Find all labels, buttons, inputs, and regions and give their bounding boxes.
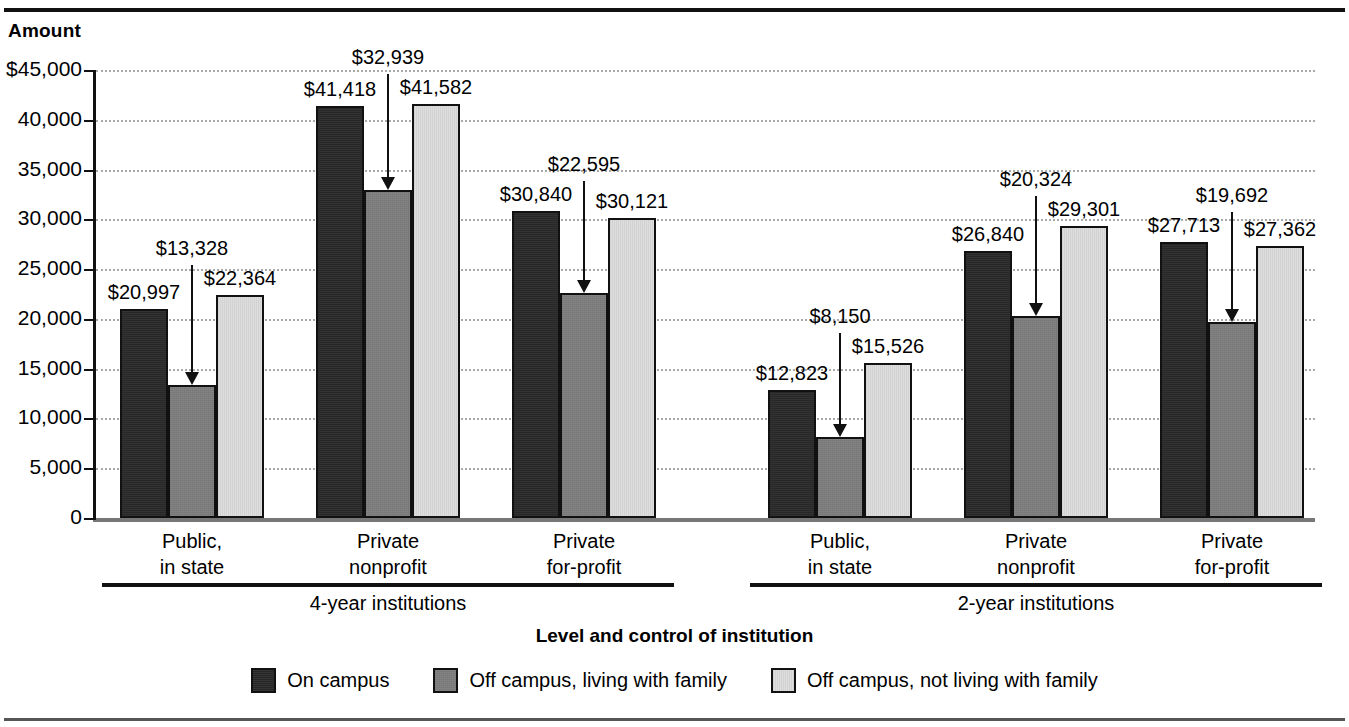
- bar-value-label: $30,840: [500, 183, 572, 206]
- gridline: [96, 120, 1315, 122]
- bar: [608, 218, 656, 518]
- bar: [1160, 242, 1208, 518]
- bar: [316, 106, 364, 518]
- category-label: Private for-profit: [1195, 528, 1269, 580]
- category-label: Public, in state: [808, 528, 872, 580]
- leader-line: [583, 181, 585, 280]
- y-tick-mark: [84, 418, 96, 420]
- bar-value-label: $30,121: [596, 190, 668, 213]
- bar: [1060, 226, 1108, 518]
- y-tick-label: 20,000: [0, 306, 82, 330]
- bar-value-label: $12,823: [756, 362, 828, 385]
- y-tick-mark: [84, 319, 96, 321]
- y-tick-mark: [84, 170, 96, 172]
- gridline: [96, 70, 1315, 72]
- legend-label: Off campus, living with family: [469, 669, 727, 692]
- bar-value-label: $27,362: [1244, 218, 1316, 241]
- y-tick-mark: [84, 369, 96, 371]
- plot-area: $20,997$41,418$30,840$12,823$26,840$27,7…: [93, 70, 1315, 518]
- bar-value-label: $20,324: [1000, 168, 1072, 191]
- y-tick-label: 25,000: [0, 256, 82, 280]
- bar: [1208, 322, 1256, 518]
- y-tick-mark: [84, 269, 96, 271]
- bar: [1256, 246, 1304, 518]
- legend-swatch-icon: [771, 668, 796, 693]
- legend-item[interactable]: Off campus, living with family: [433, 668, 727, 693]
- y-tick-label: 5,000: [0, 455, 82, 479]
- bar-value-label: $32,939: [352, 46, 424, 69]
- gridline: [96, 219, 1315, 221]
- category-label: Private nonprofit: [349, 528, 427, 580]
- y-tick-mark: [84, 219, 96, 221]
- y-axis-title: Amount: [8, 20, 81, 42]
- leader-line: [1231, 212, 1233, 309]
- y-tick-label: 35,000: [0, 157, 82, 181]
- bar-value-label: $22,364: [204, 267, 276, 290]
- legend-swatch-icon: [251, 668, 276, 693]
- leader-arrowhead: [1225, 309, 1239, 322]
- y-tick-label: $45,000: [0, 57, 82, 81]
- y-tick-mark: [84, 518, 96, 520]
- legend-label: On campus: [287, 669, 389, 692]
- legend-swatch-icon: [433, 668, 458, 693]
- bar: [412, 104, 460, 518]
- bar-value-label: $19,692: [1196, 184, 1268, 207]
- gridline: [96, 319, 1315, 321]
- top-rule: [4, 8, 1345, 12]
- bar-value-label: $13,328: [156, 237, 228, 260]
- gridline: [96, 468, 1315, 470]
- y-tick-mark: [84, 468, 96, 470]
- bar-value-label: $22,595: [548, 153, 620, 176]
- level-bracket-rule: [102, 583, 674, 587]
- bar: [1012, 316, 1060, 518]
- y-tick-mark: [84, 70, 96, 72]
- leader-line: [839, 333, 841, 423]
- leader-line: [191, 265, 193, 372]
- y-tick-label: 40,000: [0, 107, 82, 131]
- leader-arrowhead: [381, 177, 395, 190]
- bar: [816, 437, 864, 518]
- bar: [864, 363, 912, 518]
- category-label: Private nonprofit: [997, 528, 1075, 580]
- bar: [364, 190, 412, 518]
- gridline: [96, 170, 1315, 172]
- x-axis-title: Level and control of institution: [0, 625, 1349, 647]
- gridline: [96, 369, 1315, 371]
- level-label: 2-year institutions: [958, 592, 1115, 615]
- leader-arrowhead: [833, 424, 847, 437]
- legend-item[interactable]: On campus: [251, 668, 389, 693]
- leader-line: [1035, 196, 1037, 302]
- legend-label: Off campus, not living with family: [807, 669, 1098, 692]
- bar-value-label: $8,150: [809, 305, 870, 328]
- leader-arrowhead: [1029, 303, 1043, 316]
- bar: [168, 385, 216, 518]
- bar: [216, 295, 264, 518]
- bar-value-label: $15,526: [852, 335, 924, 358]
- leader-arrowhead: [185, 372, 199, 385]
- bar: [120, 309, 168, 518]
- gridline: [96, 269, 1315, 271]
- level-label: 4-year institutions: [310, 592, 467, 615]
- bar-value-label: $29,301: [1048, 198, 1120, 221]
- y-axis-line: [93, 70, 96, 518]
- y-tick-label: 10,000: [0, 405, 82, 429]
- bar: [768, 390, 816, 518]
- bar-value-label: $41,582: [400, 76, 472, 99]
- gridline: [96, 418, 1315, 420]
- y-tick-mark: [84, 120, 96, 122]
- bar: [512, 211, 560, 518]
- bar-value-label: $20,997: [108, 281, 180, 304]
- category-label: Private for-profit: [547, 528, 621, 580]
- leader-line: [387, 74, 389, 177]
- bar-value-label: $41,418: [304, 78, 376, 101]
- y-tick-label: 15,000: [0, 356, 82, 380]
- y-tick-label: 0: [0, 505, 82, 529]
- legend-item[interactable]: Off campus, not living with family: [771, 668, 1098, 693]
- leader-arrowhead: [577, 280, 591, 293]
- category-label: Public, in state: [160, 528, 224, 580]
- bar: [964, 251, 1012, 518]
- bar-value-label: $27,713: [1148, 214, 1220, 237]
- bar-value-label: $26,840: [952, 223, 1024, 246]
- bar: [560, 293, 608, 518]
- chart-legend: On campusOff campus, living with familyO…: [0, 668, 1349, 693]
